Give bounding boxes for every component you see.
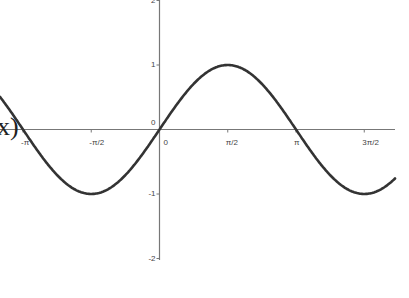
x-tick-label: π bbox=[294, 138, 300, 147]
x-tick-label: -π bbox=[21, 138, 29, 147]
y-tick-label: -2 bbox=[148, 254, 155, 263]
x-tick-label: π/2 bbox=[226, 138, 238, 147]
function-label: x) bbox=[0, 112, 19, 142]
chart-plot-area bbox=[0, 0, 409, 298]
y-tick-label: 2 bbox=[151, 0, 155, 5]
y-tick-label: -1 bbox=[148, 189, 155, 198]
y-tick-label: 1 bbox=[151, 60, 155, 69]
x-tick-label: 0 bbox=[164, 138, 168, 147]
y-tick-label: 0 bbox=[151, 118, 155, 127]
x-tick-label: -π/2 bbox=[89, 138, 104, 147]
x-tick-label: 3π/2 bbox=[362, 138, 379, 147]
